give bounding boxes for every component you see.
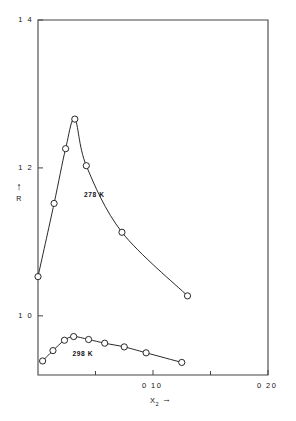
chart-figure: 1 4 1 2 1 0 0 10 0 20 278 K 298 K ↑ R X2… — [0, 0, 296, 421]
y-tick-label-1-2: 1 2 — [0, 163, 33, 172]
x-axis-arrow-icon: → — [162, 396, 172, 403]
y-axis-arrow-icon: ↑ — [10, 182, 28, 190]
series-278-k — [35, 116, 191, 299]
data-point-marker — [51, 200, 57, 206]
data-point-marker — [63, 146, 69, 152]
data-point-marker — [102, 340, 108, 346]
x-axis-ticks — [96, 370, 269, 375]
data-point-marker — [72, 116, 78, 122]
data-point-marker — [179, 359, 185, 365]
data-point-marker — [143, 350, 149, 356]
series-annotation-278k: 278 K — [84, 191, 105, 198]
x-axis-title-subscript: 2 — [156, 401, 160, 407]
x-tick-label-0-20: 0 20 — [257, 381, 277, 390]
data-point-marker — [86, 336, 92, 342]
series-298-k — [40, 333, 185, 365]
data-point-marker — [61, 337, 67, 343]
axes-frame — [38, 20, 268, 375]
data-point-marker — [184, 293, 190, 299]
data-point-marker — [50, 347, 56, 353]
x-tick-label-0-10: 0 10 — [142, 381, 162, 390]
y-axis-title: ↑ R — [10, 182, 28, 204]
data-point-marker — [40, 358, 46, 364]
data-point-marker — [121, 344, 127, 350]
data-point-marker — [83, 163, 89, 169]
data-point-marker — [119, 229, 125, 235]
y-tick-label-1-0: 1 0 — [0, 311, 33, 320]
data-point-marker — [35, 274, 41, 280]
series-line-0 — [38, 119, 188, 296]
x-axis-title: X2→ — [150, 396, 172, 407]
data-point-marker — [71, 333, 77, 339]
y-axis-title-text: R — [10, 194, 28, 204]
y-tick-label-1-4: 1 4 — [0, 15, 33, 24]
chart-plot-area — [0, 0, 296, 421]
data-series-layer — [35, 116, 191, 366]
series-annotation-298k: 298 K — [73, 350, 94, 357]
